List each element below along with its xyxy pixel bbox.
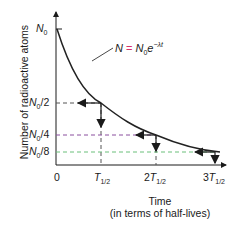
tick-t-half: T1/2 [94, 172, 110, 185]
tick-n0-quarter: N0/4 [29, 129, 49, 142]
x-axis-sublabel: (in terms of half-lives) [100, 207, 220, 219]
decay-equation: N = N0e−λt [115, 41, 163, 56]
x-axis-title: Time (in terms of half-lives) [100, 195, 220, 219]
tick-3t-half: 3T1/2 [203, 172, 225, 185]
equation-leader [92, 48, 113, 61]
x-axis-label: Time [100, 195, 220, 207]
tick-n0: N0 [36, 23, 48, 36]
tick-n0-half: N0/2 [29, 97, 49, 110]
tick-n0-eighth: N0/8 [29, 146, 49, 159]
tick-zero: 0 [54, 172, 60, 183]
tick-2t-half: 2T1/2 [144, 172, 166, 185]
